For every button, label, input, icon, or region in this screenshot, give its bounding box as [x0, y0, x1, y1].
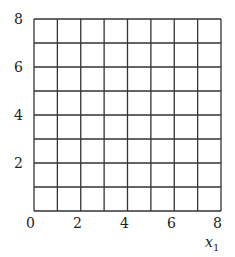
x-tick-6: 6 [167, 216, 176, 230]
x-tick-2: 2 [73, 216, 82, 230]
x-tick-8: 8 [213, 216, 222, 230]
x-axis-label-text: x [205, 234, 213, 250]
y-tick-2: 2 [14, 156, 23, 170]
y-tick-6: 6 [14, 60, 23, 74]
grid-plot [0, 0, 235, 257]
x-tick-0: 0 [26, 216, 35, 230]
x-axis-label: x1 [205, 234, 219, 253]
x-axis-label-subscript: 1 [213, 242, 219, 253]
x-tick-4: 4 [120, 216, 129, 230]
grid-lines [34, 19, 221, 211]
y-tick-4: 4 [14, 108, 23, 122]
y-tick-8: 8 [14, 12, 23, 26]
